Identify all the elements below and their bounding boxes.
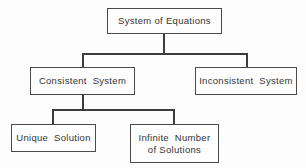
connector-upper-bus <box>82 53 248 55</box>
node-unique-solution: Unique Solution <box>11 124 96 152</box>
node-inconsistent-system: Inconsistent System <box>195 67 297 95</box>
connector-to-consistent-system <box>82 53 84 68</box>
node-unique-solution-label: Unique Solution <box>13 132 94 144</box>
connector-to-inconsistent-system <box>246 53 248 68</box>
connector-lower-bus <box>52 109 175 111</box>
system-of-equations-tree-diagram: System of Equations Consistent System In… <box>0 0 306 168</box>
node-system-of-equations: System of Equations <box>107 8 222 34</box>
node-system-of-equations-label: System of Equations <box>115 15 214 27</box>
node-inconsistent-system-label: Inconsistent System <box>196 75 296 87</box>
node-consistent-system-label: Consistent System <box>36 75 129 87</box>
node-infinite-number-of-solutions-label: Infinite Number of Solutions <box>136 132 214 156</box>
node-infinite-number-of-solutions: Infinite Number of Solutions <box>130 124 219 163</box>
connector-to-unique-solution <box>52 109 54 125</box>
connector-root-stem <box>163 34 165 55</box>
connector-to-infinite-solutions <box>173 109 175 125</box>
node-consistent-system: Consistent System <box>30 67 135 95</box>
